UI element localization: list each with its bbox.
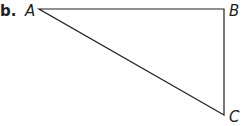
- triangle-diagram: b. A B C: [0, 0, 243, 126]
- vertex-label-c: C: [229, 108, 240, 126]
- triangle-abc: [39, 9, 224, 115]
- part-label: b.: [0, 2, 16, 20]
- vertex-label-b: B: [229, 2, 239, 20]
- vertex-label-a: A: [24, 2, 35, 20]
